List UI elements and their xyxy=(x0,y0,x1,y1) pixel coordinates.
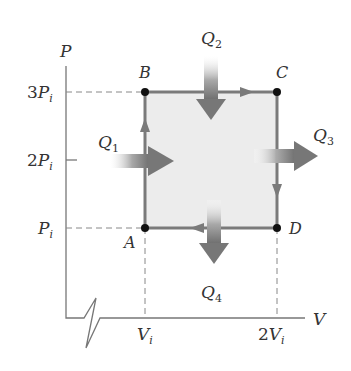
label-q3: Q3 xyxy=(313,125,334,148)
point-b xyxy=(141,88,149,96)
x-tick-2vi: 2Vi xyxy=(258,324,285,347)
y-axis-label: P xyxy=(59,41,72,61)
y-tick-pi: Pi xyxy=(37,218,53,241)
x-tick-vi: Vi xyxy=(137,324,153,347)
label-q4: Q4 xyxy=(201,282,222,305)
y-tick-3pi: 3Pi xyxy=(27,82,53,105)
label-c: C xyxy=(276,63,288,82)
y-tick-2pi: 2Pi xyxy=(27,150,53,173)
x-axis-label: V xyxy=(313,309,327,329)
label-a: A xyxy=(122,233,136,252)
label-q2: Q2 xyxy=(201,28,222,51)
point-d xyxy=(273,224,281,232)
point-c xyxy=(273,88,281,96)
label-b: B xyxy=(138,63,151,82)
label-d: D xyxy=(288,219,302,238)
label-q1: Q1 xyxy=(98,132,119,155)
pv-diagram: P V 3Pi 2Pi Pi Vi 2Vi A B C D Q1 Q2 Q3 Q… xyxy=(0,0,351,371)
point-a xyxy=(141,224,149,232)
